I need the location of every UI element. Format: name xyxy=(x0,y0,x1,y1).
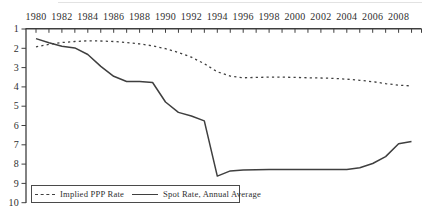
exchange-rate-figure: 1980198219841986198819901992199419961998… xyxy=(0,0,429,221)
y-tick-label: 5 xyxy=(14,100,19,111)
x-tick-label: 1996 xyxy=(233,11,254,22)
y-tick-label: 8 xyxy=(14,158,19,169)
spot-legend-label: Spot Rate, Annual Average xyxy=(163,189,261,199)
x-tick-label: 2006 xyxy=(362,11,383,22)
y-tick-label: 3 xyxy=(14,62,19,73)
x-tick-label: 1998 xyxy=(258,11,279,22)
ppp-rate-line xyxy=(36,41,412,86)
y-tick-label: 6 xyxy=(14,120,19,131)
x-tick-label: 1982 xyxy=(51,11,72,22)
spot-rate-line xyxy=(36,39,412,177)
x-tick-label: 1984 xyxy=(77,11,98,22)
x-tick-label: 1994 xyxy=(207,11,228,22)
ppp-legend-label: Implied PPP Rate xyxy=(60,189,124,199)
x-tick-label: 2008 xyxy=(388,11,409,22)
y-tick-label: 10 xyxy=(8,197,19,208)
y-tick-label: 9 xyxy=(14,178,19,189)
x-tick-label: 1988 xyxy=(129,11,150,22)
y-tick-label: 7 xyxy=(14,139,19,150)
x-tick-label: 1980 xyxy=(25,11,46,22)
y-tick-label: 4 xyxy=(14,81,19,92)
x-tick-label: 1986 xyxy=(103,11,124,22)
x-tick-label: 2002 xyxy=(310,11,331,22)
ppp-dashed-line-sample xyxy=(35,194,55,195)
x-tick-label: 1990 xyxy=(155,11,176,22)
spot-solid-line-sample xyxy=(132,194,158,195)
chart-legend: Implied PPP Rate Spot Rate, Annual Avera… xyxy=(31,185,240,203)
y-tick-label: 1 xyxy=(14,23,19,34)
x-tick-label: 2000 xyxy=(284,11,305,22)
x-tick-label: 2004 xyxy=(336,11,357,22)
x-tick-label: 1992 xyxy=(181,11,202,22)
y-tick-label: 2 xyxy=(14,43,19,54)
